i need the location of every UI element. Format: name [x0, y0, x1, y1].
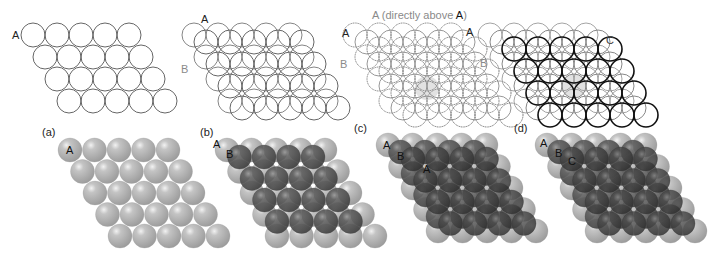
outline-caption-c: A (directly above A)	[372, 9, 467, 21]
layer-a-outline-circle	[105, 89, 129, 113]
layer-a-outline-circle	[57, 45, 81, 69]
layer-a-outline-circle	[153, 89, 177, 113]
sphere-label-d-C: C	[568, 155, 576, 167]
sphere-layer-b	[265, 167, 289, 191]
layer-a-outline-circle	[105, 45, 129, 69]
sphere-layer-a2	[475, 147, 499, 171]
sphere-layer-a2	[439, 212, 463, 236]
sphere-layer-c	[659, 190, 683, 214]
outline-label-d-C: C	[606, 34, 614, 46]
sphere-layer-a2	[463, 212, 487, 236]
outline-label-c-A: A	[342, 27, 350, 39]
sphere-layer-b	[302, 188, 326, 212]
sphere-layer-a	[120, 203, 144, 227]
sphere-label-c-A: A	[383, 139, 391, 151]
layer-a-outline-circle	[69, 67, 93, 91]
layer-a-outline-circle	[129, 89, 153, 113]
panel-label-b: (b)	[200, 126, 213, 138]
sphere-layer-a	[95, 160, 119, 184]
sphere-layer-b	[289, 167, 313, 191]
sphere-layer-c	[598, 212, 622, 236]
sphere-layer-a2	[487, 169, 511, 193]
sphere-layer-a2	[438, 169, 462, 193]
caption-prefix: A (directly above	[372, 9, 456, 21]
sphere-layer-c	[647, 212, 671, 236]
sphere-layer-b	[314, 210, 338, 234]
sphere-layer-a	[83, 138, 107, 162]
sphere-layer-a2	[401, 147, 425, 171]
sphere-layer-a	[181, 181, 205, 205]
sphere-layer-a2	[488, 212, 512, 236]
outline-label-c-B: B	[340, 58, 347, 70]
layer-a-outline-circle	[45, 23, 69, 47]
sphere-layer-c	[634, 190, 658, 214]
layer-a-outline-circle	[141, 67, 165, 91]
sphere-layer-a	[107, 138, 131, 162]
sphere-label-c-B: B	[397, 150, 404, 162]
outline-panel-b	[182, 23, 350, 120]
panel-label-a: (a)	[42, 126, 55, 138]
sphere-layer-a2	[500, 190, 524, 214]
outline-label-b-A: A	[201, 13, 209, 25]
sphere-layer-a	[120, 160, 144, 184]
sphere-layer-c	[609, 147, 633, 171]
sphere-layer-a	[182, 224, 206, 248]
sphere-layer-a	[132, 181, 156, 205]
layer-a-outline-circle	[57, 89, 81, 113]
caption-suffix: )	[463, 9, 467, 21]
sphere-layer-b	[290, 210, 314, 234]
sphere-layer-a2	[426, 190, 450, 214]
sphere-layer-c	[634, 147, 658, 171]
sphere-label-d-A: A	[540, 137, 548, 149]
outline-label-a-A: A	[12, 29, 20, 41]
sphere-label-b-A: A	[213, 138, 221, 150]
sphere-layer-c	[573, 169, 597, 193]
outline-label-d-A: A	[466, 26, 474, 38]
sphere-layer-b	[326, 188, 350, 212]
sphere-layer-a	[71, 160, 95, 184]
sphere-panel-b	[215, 138, 387, 248]
layer-a-outline-circle	[45, 67, 69, 91]
layer-a-outline-circle	[93, 23, 117, 47]
sphere-layer-c	[622, 212, 646, 236]
sphere-layer-c	[585, 190, 609, 214]
outline-label-b-B: B	[181, 63, 188, 75]
sphere-layer-b	[301, 145, 325, 169]
sphere-layer-a	[83, 181, 107, 205]
sphere-layer-b	[240, 167, 264, 191]
sphere-layer-a	[156, 138, 180, 162]
sphere-label-a-A: A	[66, 144, 74, 156]
sphere-layer-a	[133, 224, 157, 248]
sphere-layer-c	[622, 169, 646, 193]
sphere-label-d-B: B	[555, 147, 562, 159]
sphere-layer-a2	[475, 190, 499, 214]
sphere-layer-c	[646, 169, 670, 193]
panel-label-c: (c)	[354, 122, 367, 134]
sphere-label-c-A2: A	[423, 163, 431, 175]
layer-a-outline-circle	[129, 45, 153, 69]
panel-label-d: (d)	[514, 122, 527, 134]
sphere-layer-c	[585, 147, 609, 171]
sphere-label-b-B: B	[226, 148, 233, 160]
layer-a-outline-circle	[21, 23, 45, 47]
sphere-layer-b	[277, 145, 301, 169]
sphere-layer-a	[169, 203, 193, 227]
sphere-layer-a2	[463, 169, 487, 193]
sphere-layer-b	[277, 188, 301, 212]
sphere-layer-a	[108, 181, 132, 205]
layer-a-outline-circle	[81, 89, 105, 113]
sphere-layer-a	[96, 203, 120, 227]
sphere-layer-a	[144, 160, 168, 184]
sphere-layer-a	[169, 160, 193, 184]
sphere-layer-a	[108, 224, 132, 248]
sphere-layer-b	[265, 210, 289, 234]
sphere-layer-a2	[451, 190, 475, 214]
outline-label-d-B: B	[480, 57, 487, 69]
sphere-layer-c	[671, 212, 695, 236]
sphere-layer-b	[252, 145, 276, 169]
sphere-layer-c	[610, 190, 634, 214]
sphere-layer-a	[145, 203, 169, 227]
layer-a-outline-circle	[33, 45, 57, 69]
sphere-layer-a	[206, 224, 230, 248]
outline-panel-d	[478, 23, 658, 127]
